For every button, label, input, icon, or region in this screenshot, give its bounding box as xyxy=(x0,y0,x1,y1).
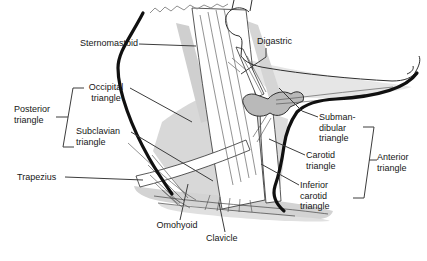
label-subclavian-triangle: Subclavian triangle xyxy=(76,126,120,147)
label-digastric: Digastric xyxy=(257,36,292,47)
neck-triangles-diagram: Sternomastoid Digastric Occipital triang… xyxy=(0,0,427,261)
label-carotid-triangle: Carotid triangle xyxy=(306,150,336,171)
label-omohyoid: Omohyoid xyxy=(151,220,203,231)
anterior-triangle-bracket xyxy=(353,127,374,198)
label-inferior-carotid-triangle: Inferior carotid triangle xyxy=(300,180,330,212)
label-clavicle: Clavicle xyxy=(206,233,238,244)
label-trapezius: Trapezius xyxy=(17,172,56,183)
leader-trapezius xyxy=(65,177,143,180)
label-anterior-triangle: Anterior triangle xyxy=(377,152,409,173)
label-posterior-triangle: Posterior triangle xyxy=(14,104,50,125)
label-submandibular-triangle: Subman- dibular triangle xyxy=(319,112,356,144)
label-occipital-triangle: Occipital triangle xyxy=(82,82,130,103)
label-sternomastoid: Sternomastoid xyxy=(54,38,138,49)
leader-occipital xyxy=(130,88,192,122)
